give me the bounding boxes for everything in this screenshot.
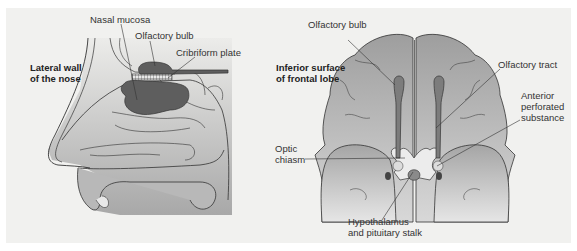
label-line: Anterior — [521, 90, 564, 101]
optic-chiasm-label: Optic chiasm — [275, 143, 305, 165]
title-line-2: of frontal lobe — [276, 73, 345, 84]
label-line: chiasm — [275, 154, 305, 165]
label-line: Optic — [275, 143, 305, 154]
lateral-wall-title: Lateral wall of the nose — [30, 62, 82, 84]
olfactory-bulb-label-right: Olfactory bulb — [308, 19, 367, 30]
olfactory-tract-label: Olfactory tract — [498, 59, 557, 70]
cribriform-plate — [132, 74, 172, 80]
label-line: perforated — [521, 101, 564, 112]
cribriform-plate-label: Cribriform plate — [176, 47, 241, 58]
title-line-1: Inferior surface — [276, 62, 345, 73]
olfactory-bulb-label-left: Olfactory bulb — [135, 30, 194, 41]
label-line: substance — [521, 112, 564, 123]
hypothalamus-label: Hypothalamus and pituitary stalk — [348, 216, 422, 238]
anterior-perforated-substance-label: Anterior perforated substance — [521, 90, 564, 123]
anatomy-illustration — [0, 0, 577, 251]
nasal-mucosa-label: Nasal mucosa — [90, 14, 150, 25]
title-line-2: of the nose — [30, 73, 82, 84]
label-line: Hypothalamus — [348, 216, 422, 227]
inferior-surface-title: Inferior surface of frontal lobe — [276, 62, 345, 84]
title-line-1: Lateral wall — [30, 62, 82, 73]
label-line: and pituitary stalk — [348, 227, 422, 238]
